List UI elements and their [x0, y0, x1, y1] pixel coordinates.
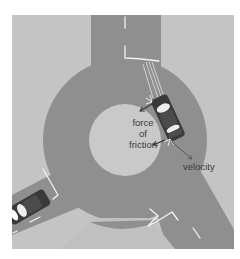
friction-label-line1: force: [132, 117, 153, 128]
roundabout-diagram: force of friction velocity: [0, 0, 240, 259]
friction-label-line2: of: [139, 128, 147, 139]
friction-label-line3: friction: [129, 139, 157, 150]
velocity-label: velocity: [183, 161, 215, 172]
